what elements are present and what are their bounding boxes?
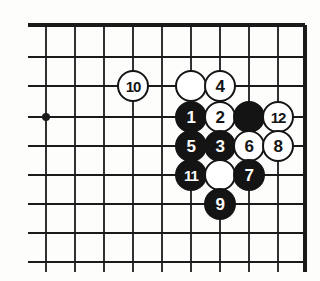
stone-move-number: 6 (245, 137, 254, 154)
stone-move-number: 4 (216, 77, 225, 94)
stone-5[interactable]: 5 (175, 130, 207, 162)
stone-move-number: 12 (271, 109, 286, 124)
stone-3[interactable]: 3 (204, 130, 236, 162)
stone-white-unnumbered-a[interactable] (175, 70, 207, 102)
stone-move-number: 10 (126, 78, 141, 93)
stone-layer: 104121253681179 (0, 0, 320, 281)
stone-11[interactable]: 11 (175, 159, 207, 191)
stone-10[interactable]: 10 (117, 70, 149, 102)
stone-2[interactable]: 2 (204, 101, 236, 133)
stone-move-number: 11 (184, 167, 198, 182)
stone-black-unnumbered-a[interactable] (233, 101, 265, 133)
stone-12[interactable]: 12 (262, 101, 294, 133)
stone-move-number: 7 (245, 166, 254, 183)
stone-9[interactable]: 9 (204, 188, 236, 220)
stone-move-number: 5 (187, 137, 196, 154)
stone-4[interactable]: 4 (204, 70, 236, 102)
stone-move-number: 8 (274, 137, 283, 154)
stone-white-unnumbered-b[interactable] (204, 159, 236, 191)
stone-6[interactable]: 6 (233, 130, 265, 162)
stone-move-number: 2 (216, 108, 225, 125)
stone-8[interactable]: 8 (262, 130, 294, 162)
stone-7[interactable]: 7 (233, 159, 265, 191)
stone-move-number: 1 (187, 108, 196, 125)
stone-move-number: 9 (216, 195, 225, 212)
go-board-diagram: 104121253681179 (0, 0, 320, 281)
stone-1[interactable]: 1 (175, 101, 207, 133)
stone-move-number: 3 (216, 137, 225, 154)
